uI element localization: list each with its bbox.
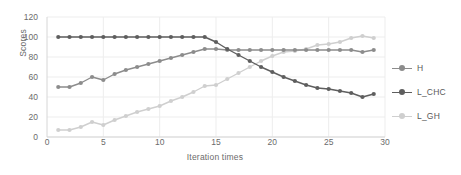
legend-item-l_gh[interactable]: L_GH bbox=[392, 104, 461, 128]
chart-legend: HL_CHCL_GH bbox=[392, 56, 461, 128]
legend-label: H bbox=[417, 63, 423, 73]
legend-item-h[interactable]: H bbox=[392, 56, 461, 80]
legend-label: L_CHC bbox=[417, 87, 446, 97]
legend-label: L_GH bbox=[417, 111, 440, 121]
legend-item-l_chc[interactable]: L_CHC bbox=[392, 80, 461, 104]
legend-marker-icon bbox=[392, 63, 412, 73]
legend-marker-icon bbox=[392, 111, 412, 121]
legend-marker-icon bbox=[392, 87, 412, 97]
chart-figure: Scores Iteration times 020406080100120 0… bbox=[0, 0, 461, 175]
